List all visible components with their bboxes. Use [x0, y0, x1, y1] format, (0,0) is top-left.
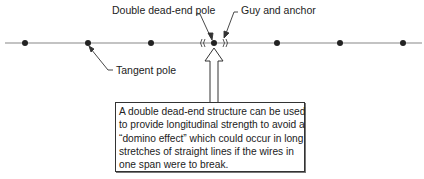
note-line: stretches of straight lines if the wires… [119, 145, 301, 158]
leader-tangent [89, 46, 113, 70]
note-line: “domino effect” which could occur in lon… [119, 132, 301, 145]
tangent-pole [85, 40, 91, 46]
double-dead-end-pole [211, 40, 217, 46]
pole [400, 40, 406, 46]
pole [22, 40, 28, 46]
note-line: one span were to break. [119, 158, 301, 171]
callout-arrow-icon [205, 48, 223, 103]
pole [337, 40, 343, 46]
guy-and-anchor-label: Guy and anchor [241, 4, 316, 16]
note-line: to provide longitudinal strength to avoi… [119, 118, 301, 131]
pole [274, 40, 280, 46]
pole [148, 40, 154, 46]
leader-dead-end [196, 14, 213, 40]
tangent-pole-label: Tangent pole [116, 64, 176, 76]
note-line: A double dead-end structure can be used [119, 105, 301, 118]
explanation-note-box: A double dead-end structure can be used … [115, 102, 305, 172]
leader-guy-anchor [224, 12, 238, 38]
double-dead-end-pole-label: Double dead-end pole [112, 4, 215, 16]
